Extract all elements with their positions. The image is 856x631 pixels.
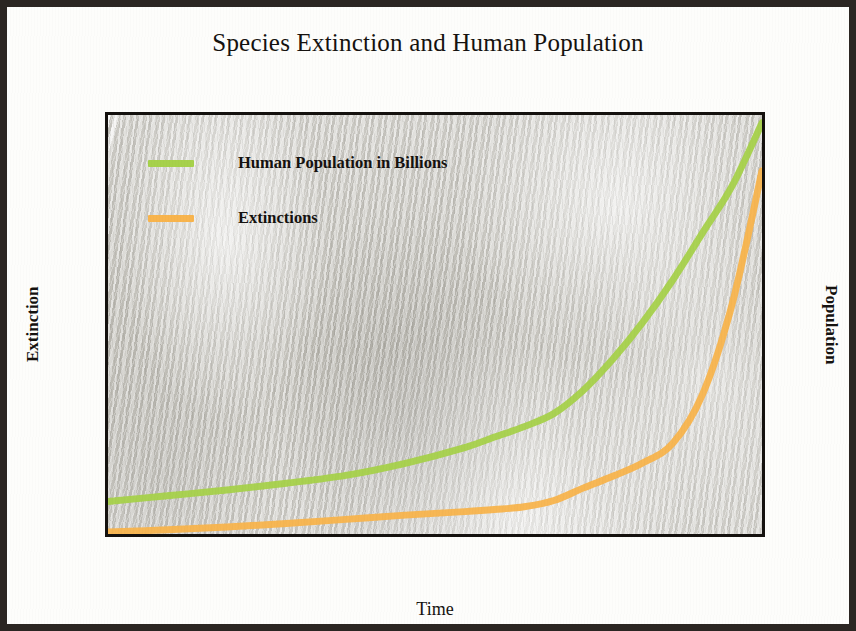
y-tick-major [105, 114, 108, 117]
x-tick-major [107, 534, 110, 537]
y-tick-minor [105, 149, 108, 151]
y-tick-minor [105, 291, 108, 293]
legend-swatch-population [148, 160, 194, 167]
x-tick-minor [587, 534, 589, 537]
x-tick-minor [407, 534, 409, 537]
x-tick-minor [347, 534, 349, 537]
y-tick-major [105, 326, 108, 329]
x-tick-minor [167, 534, 169, 537]
y-axis-title: Extinction [23, 112, 43, 537]
y2-tick-major [762, 326, 765, 329]
y-tick-minor [105, 433, 108, 435]
x-tick-major [197, 534, 200, 537]
x-tick-major [467, 534, 470, 537]
legend-item-population: Human Population in Billions [148, 150, 448, 176]
x-tick-minor [707, 534, 709, 537]
y-tick-minor [105, 220, 108, 222]
y2-tick-major [762, 485, 765, 488]
legend-swatch-extinctions [148, 215, 194, 222]
x-axis-title: Time [105, 599, 765, 620]
x-tick-minor [437, 534, 439, 537]
y2-tick-major [762, 220, 765, 223]
y2-tick-major [762, 432, 765, 435]
x-tick-minor [677, 534, 679, 537]
legend-item-extinctions: Extinctions [148, 205, 448, 231]
x-tick-minor [497, 534, 499, 537]
y-tick-major [105, 397, 108, 400]
chart-title: Species Extinction and Human Population [7, 29, 849, 57]
legend-label-extinctions: Extinctions [238, 208, 318, 228]
y2-tick-major [762, 114, 765, 117]
y2-tick-major [762, 167, 765, 170]
x-tick-minor [617, 534, 619, 537]
legend-label-population: Human Population in Billions [238, 153, 448, 173]
x-tick-major [287, 534, 290, 537]
x-tick-minor [137, 534, 139, 537]
x-tick-minor [527, 534, 529, 537]
x-tick-minor [257, 534, 259, 537]
y-tick-minor [105, 362, 108, 364]
y2-tick-major [762, 379, 765, 382]
chart-legend: Human Population in Billions Extinctions [148, 150, 448, 231]
y-tick-minor [105, 504, 108, 506]
secondary-y-axis-title: Population [821, 112, 841, 537]
y-tick-major [105, 255, 108, 258]
x-tick-minor [227, 534, 229, 537]
x-tick-major [557, 534, 560, 537]
y-tick-major [105, 468, 108, 471]
x-tick-major [647, 534, 650, 537]
x-tick-major [377, 534, 380, 537]
figure-page: Species Extinction and Human Population … [0, 0, 856, 631]
y-tick-major [105, 184, 108, 187]
plot-area: Human Population in Billions Extinctions… [105, 112, 765, 537]
y2-tick-major [762, 273, 765, 276]
x-tick-minor [317, 534, 319, 537]
x-tick-major [737, 534, 740, 537]
